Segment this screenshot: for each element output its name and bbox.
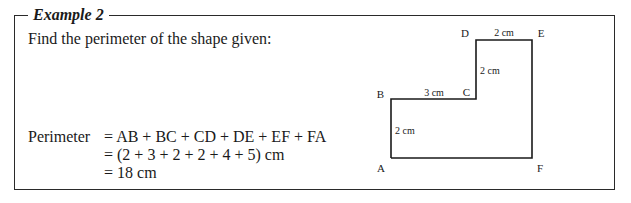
l-shape-diagram: D E C B A F 2 cm 2 cm 3 cm 2 cm [0, 0, 631, 203]
vertex-f: F [537, 162, 543, 174]
vertex-d: D [461, 27, 469, 39]
shape-outline [391, 40, 532, 158]
edge-label-ab: 2 cm [395, 125, 415, 136]
edge-label-cd: 2 cm [480, 65, 500, 76]
vertex-e: E [538, 27, 545, 39]
edge-label-de: 2 cm [494, 27, 514, 38]
vertex-c: C [463, 86, 470, 98]
vertex-b: B [377, 88, 384, 100]
edge-label-bc: 3 cm [424, 87, 444, 98]
vertex-a: A [377, 162, 385, 174]
